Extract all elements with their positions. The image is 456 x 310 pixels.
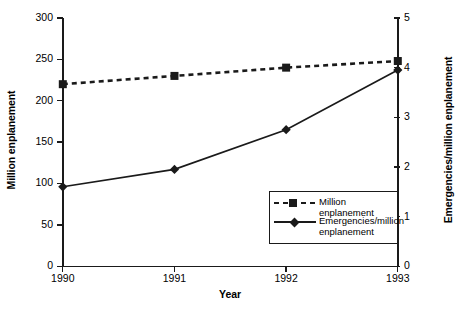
legend: Million enplanement Emergencies/million … (269, 191, 398, 244)
data-point-marker (170, 165, 179, 174)
legend-label: Emergencies/million enplanement (316, 215, 397, 237)
data-point-marker (282, 64, 290, 72)
chart-figure: Million enplanement Emergencies/million … (0, 0, 456, 310)
data-point-marker (59, 80, 67, 88)
plot-area (0, 0, 456, 310)
data-point-marker (58, 182, 67, 191)
series-line (63, 70, 398, 187)
legend-key-solid-diamond-icon (274, 216, 316, 228)
legend-key-dashed-square-icon (274, 197, 316, 209)
data-point-marker (282, 125, 291, 134)
data-point-marker (393, 66, 402, 75)
series-line (63, 61, 398, 84)
data-point-marker (394, 57, 402, 65)
legend-item-emergencies-per-million: Emergencies/million enplanement (274, 215, 397, 237)
data-point-marker (170, 72, 178, 80)
